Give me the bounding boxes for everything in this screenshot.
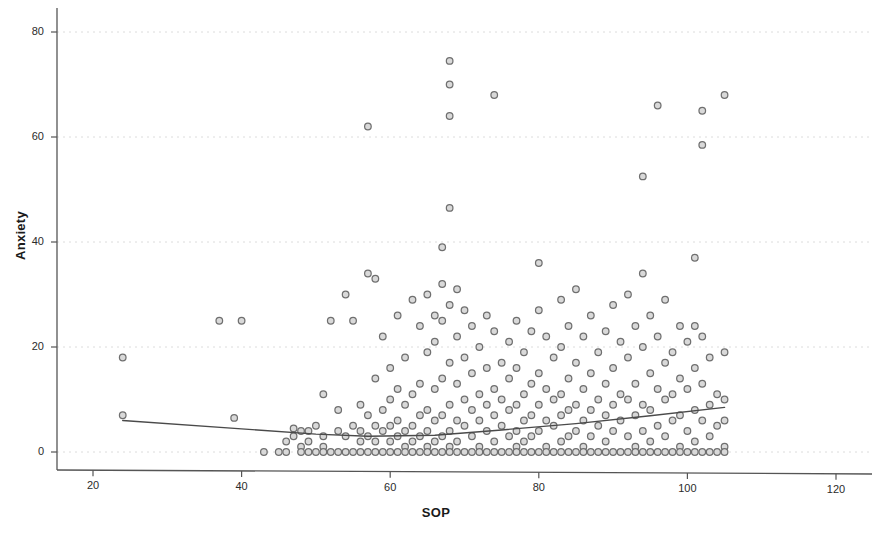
data-point <box>476 417 483 424</box>
data-point <box>394 417 401 424</box>
data-point <box>647 312 654 319</box>
data-point <box>706 433 713 440</box>
data-point <box>305 438 312 445</box>
scatter-plot-figure <box>0 0 872 535</box>
data-point <box>647 438 654 445</box>
data-point <box>588 433 595 440</box>
data-point <box>357 449 364 456</box>
data-point <box>714 422 721 429</box>
data-point <box>454 380 461 387</box>
data-point <box>706 354 713 361</box>
data-point <box>275 449 282 456</box>
data-point <box>521 417 528 424</box>
data-point <box>692 365 699 372</box>
data-point <box>640 449 647 456</box>
data-point <box>721 396 728 403</box>
data-point <box>699 449 706 456</box>
data-point <box>417 380 424 387</box>
data-point <box>565 449 572 456</box>
data-point <box>365 123 372 130</box>
data-point <box>372 438 379 445</box>
data-point <box>699 333 706 340</box>
data-point <box>721 449 728 456</box>
data-point <box>498 396 505 403</box>
data-point <box>119 354 126 361</box>
data-point <box>424 428 431 435</box>
data-point <box>469 433 476 440</box>
data-point <box>446 81 453 88</box>
x-tick-label-60: 60 <box>370 481 410 493</box>
data-point <box>483 401 490 408</box>
data-point <box>357 401 364 408</box>
data-point <box>684 449 691 456</box>
data-point <box>692 323 699 330</box>
data-point <box>469 449 476 456</box>
data-point <box>558 344 565 351</box>
data-point <box>446 359 453 366</box>
data-point <box>446 401 453 408</box>
data-point <box>528 412 535 419</box>
data-point <box>327 449 334 456</box>
data-point <box>394 312 401 319</box>
data-point <box>424 449 431 456</box>
data-point <box>320 449 327 456</box>
data-point <box>677 449 684 456</box>
data-point <box>402 354 409 361</box>
data-point <box>625 396 632 403</box>
data-point <box>431 338 438 345</box>
data-point <box>595 449 602 456</box>
data-point <box>528 433 535 440</box>
data-point <box>387 396 394 403</box>
data-point <box>372 275 379 282</box>
data-point <box>424 407 431 414</box>
data-point <box>654 102 661 109</box>
data-point <box>402 401 409 408</box>
data-point <box>417 323 424 330</box>
data-point <box>714 391 721 398</box>
data-point <box>387 438 394 445</box>
data-point <box>394 449 401 456</box>
data-point <box>677 323 684 330</box>
data-point <box>588 407 595 414</box>
data-point <box>699 107 706 114</box>
data-point <box>417 433 424 440</box>
data-point <box>379 407 386 414</box>
y-tick-label-0: 0 <box>10 445 44 457</box>
data-point <box>409 391 416 398</box>
data-point <box>588 449 595 456</box>
data-point <box>357 438 364 445</box>
y-tick-label-80: 80 <box>10 25 44 37</box>
data-point <box>610 428 617 435</box>
data-point <box>536 449 543 456</box>
x-tick-label-20: 20 <box>73 479 113 491</box>
data-point <box>320 391 327 398</box>
data-point <box>290 433 297 440</box>
data-point <box>662 296 669 303</box>
data-point <box>469 370 476 377</box>
data-point <box>684 338 691 345</box>
data-point <box>632 323 639 330</box>
data-point <box>558 391 565 398</box>
data-point <box>439 281 446 288</box>
data-point <box>595 422 602 429</box>
data-point <box>632 380 639 387</box>
data-point <box>350 317 357 324</box>
data-point <box>558 296 565 303</box>
data-point <box>372 449 379 456</box>
data-point <box>513 365 520 372</box>
data-point <box>461 354 468 361</box>
data-point <box>439 412 446 419</box>
data-point <box>602 449 609 456</box>
x-tick-label-100: 100 <box>667 482 707 494</box>
data-point <box>298 449 305 456</box>
data-point <box>454 438 461 445</box>
data-point <box>327 317 334 324</box>
data-point <box>417 449 424 456</box>
data-point <box>483 365 490 372</box>
data-point <box>595 396 602 403</box>
data-point <box>565 433 572 440</box>
data-point <box>543 333 550 340</box>
data-point <box>640 401 647 408</box>
data-point <box>431 449 438 456</box>
data-point <box>506 375 513 382</box>
